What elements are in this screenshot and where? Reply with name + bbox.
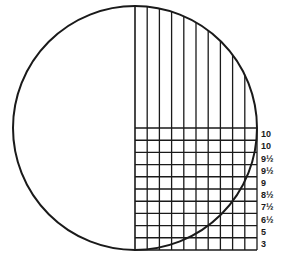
row-label: 10 [261, 129, 271, 139]
row-label: 10 [261, 141, 271, 151]
row-label: 8½ [261, 190, 274, 200]
row-label: 9½ [261, 154, 274, 164]
row-label: 9 [261, 178, 266, 188]
row-label: 7½ [261, 202, 274, 212]
row-label: 3 [261, 239, 266, 249]
row-label: 5 [261, 227, 266, 237]
row-labels: 10109½9½98½7½6½53 [261, 129, 274, 249]
row-label: 6½ [261, 215, 274, 225]
circle-grid-diagram: 10109½9½98½7½6½53 [0, 0, 281, 268]
row-label: 9½ [261, 166, 274, 176]
